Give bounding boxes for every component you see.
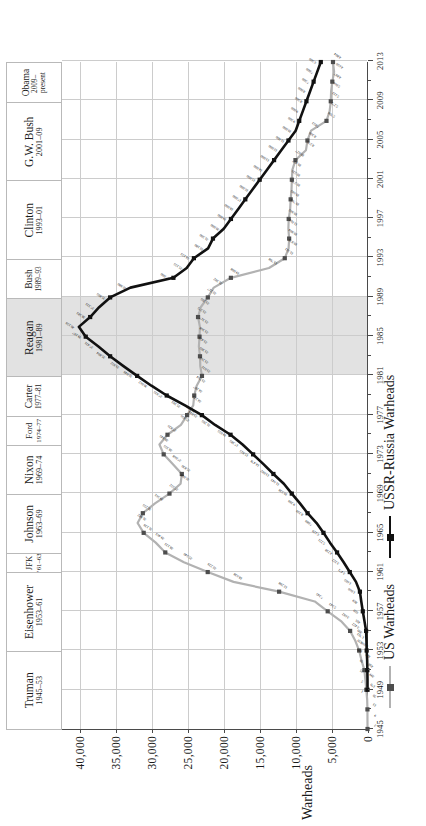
x-axis-tick: [368, 335, 373, 336]
data-point-marker: [229, 276, 233, 280]
data-value-label: 4,804: [334, 52, 343, 60]
x-axis-tick: [368, 649, 373, 650]
y-axis-tick: [224, 729, 225, 733]
legend-item-us[interactable]: US Warheads: [382, 584, 398, 708]
y-axis-tick: [296, 729, 297, 733]
x-axis-tick: [368, 139, 373, 140]
data-point-marker: [108, 295, 112, 299]
data-point-marker: [304, 99, 308, 103]
president-name: G.W. Bush: [23, 117, 35, 167]
legend-label-ussr-russia: USSR-Russia Warheads: [382, 375, 398, 510]
x-axis-minor-tick: [368, 119, 371, 120]
data-value-label: 13: [372, 703, 377, 708]
x-axis-tick-label: 2001: [375, 170, 385, 188]
president-era-g-w-bush: G.W. Bush2001–09: [7, 102, 61, 180]
data-point-marker: [163, 550, 167, 554]
x-axis-tick: [368, 296, 373, 297]
president-era-truman: Truman1945–53: [7, 651, 61, 729]
president-years: 1993–01: [36, 206, 45, 235]
x-axis-tick: [368, 610, 373, 611]
x-axis-minor-tick: [368, 237, 371, 238]
x-axis-tick: [368, 689, 373, 690]
x-axis-tick: [368, 492, 373, 493]
legend-swatch-us: [384, 666, 396, 708]
data-point-marker: [331, 60, 335, 64]
president-era-nixon: Nixon1969–74: [7, 445, 61, 494]
series-svg: [62, 62, 368, 729]
president-era-reagan: Reagan1981–89: [7, 298, 61, 376]
x-axis-minor-tick: [368, 512, 371, 513]
x-axis-tick-label: 1985: [375, 327, 385, 345]
president-name: Nixon: [23, 456, 35, 485]
x-axis-minor-tick: [368, 80, 371, 81]
president-era-ford: Ford1974–77: [7, 416, 61, 445]
president-name: Clinton: [23, 203, 35, 238]
x-axis-minor-tick: [368, 669, 371, 670]
data-value-label: 299: [368, 672, 375, 678]
x-axis-tick-label: 2009: [375, 91, 385, 109]
data-point-marker: [251, 452, 255, 456]
data-point-marker: [211, 236, 215, 240]
data-point-marker: [277, 590, 281, 594]
data-point-marker: [297, 119, 301, 123]
legend-swatch-ussr-russia: [384, 516, 396, 558]
president-era-carter: Carter1977–81: [7, 376, 61, 415]
data-point-marker: [108, 354, 112, 358]
president-name: Truman: [23, 672, 35, 708]
president-name: Carter: [24, 385, 34, 409]
y-axis-tick-label: 15,000: [254, 736, 266, 769]
x-axis-tick-label: 1997: [375, 209, 385, 227]
data-point-marker: [283, 256, 287, 260]
y-axis-tick-label: 35,000: [110, 736, 122, 769]
president-years: ’61–63: [35, 553, 42, 572]
data-point-marker: [312, 80, 316, 84]
x-axis-minor-tick: [368, 315, 371, 316]
president-name: Eisenhower: [23, 585, 35, 639]
x-axis-tick: [368, 256, 373, 257]
data-point-marker: [358, 590, 362, 594]
x-axis-tick-label: 1989: [375, 288, 385, 306]
x-axis-tick: [368, 60, 373, 61]
president-name: Ford: [25, 423, 34, 439]
data-point-marker: [348, 570, 352, 574]
y-axis-tick-label: 20,000: [218, 736, 230, 769]
data-point-marker: [165, 393, 169, 397]
president-name: Bush: [24, 269, 34, 289]
data-point-marker: [243, 197, 247, 201]
data-point-marker: [271, 472, 275, 476]
data-point-marker: [167, 492, 171, 496]
president-era-bush: Bush1989–93: [7, 259, 61, 298]
president-years: 1953–61: [36, 598, 45, 627]
y-axis-tick: [260, 729, 261, 733]
president-years: 1945–53: [36, 676, 45, 705]
president-years: 1969–74: [36, 456, 45, 485]
y-axis-tick-label: 0: [362, 736, 374, 742]
president-name: Obama: [21, 69, 31, 96]
x-axis-tick-label: 1945: [375, 720, 385, 738]
president-name: Johnson: [23, 505, 35, 543]
data-point-marker: [84, 335, 88, 339]
x-axis-minor-tick: [368, 433, 371, 434]
president-era-jfk: JFK’61–63: [7, 553, 61, 573]
data-point-marker: [305, 511, 309, 515]
data-point-marker: [324, 119, 328, 123]
legend-item-ussr-russia[interactable]: USSR-Russia Warheads: [382, 375, 398, 558]
data-point-marker: [326, 609, 330, 613]
y-axis-tick-label: 5,000: [326, 736, 338, 763]
x-axis-tick: [368, 374, 373, 375]
chart-legend: US Warheads USSR-Russia Warheads: [382, 375, 398, 708]
data-point-marker: [335, 550, 339, 554]
x-axis-minor-tick: [368, 198, 371, 199]
y-axis-tick: [188, 729, 189, 733]
data-point-marker: [200, 413, 204, 417]
data-point-marker: [206, 570, 210, 574]
data-point-marker: [319, 60, 323, 64]
legend-label-us: US Warheads: [382, 584, 398, 660]
x-axis-minor-tick: [368, 473, 371, 474]
y-axis-tick-label: 25,000: [182, 736, 194, 769]
data-point-marker: [88, 315, 92, 319]
x-axis-minor-tick: [368, 590, 371, 591]
x-axis-minor-tick: [368, 630, 371, 631]
data-point-marker: [361, 609, 365, 613]
y-axis-tick: [368, 729, 369, 733]
